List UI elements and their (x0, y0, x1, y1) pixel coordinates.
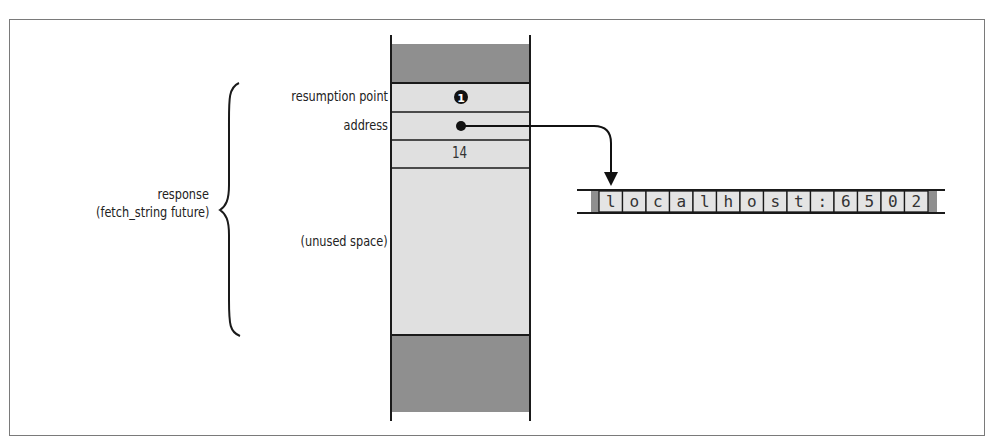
cell-value-14: 14 (452, 144, 467, 162)
diagram-graphics: 1 (0, 0, 994, 448)
string-char: 6 (836, 191, 856, 212)
string-char: h (718, 191, 738, 212)
string-char: l (695, 191, 715, 212)
stack-frame-fill (391, 83, 530, 335)
string-char: 2 (906, 191, 926, 212)
string-char: l (601, 191, 621, 212)
string-char: 0 (883, 191, 903, 212)
label-response: response (158, 186, 209, 203)
stack-used-bottom (391, 335, 530, 412)
stack-used-top (391, 44, 530, 83)
svg-text:1: 1 (457, 92, 465, 105)
arrowhead-icon (604, 172, 618, 186)
label-resumption-point: resumption point (291, 88, 388, 105)
string-char: a (671, 191, 691, 212)
string-char: c (648, 191, 668, 212)
string-char: : (812, 191, 832, 212)
string-char: o (742, 191, 762, 212)
string-char: t (789, 191, 809, 212)
label-fetch-string-future: (fetch_string future) (96, 204, 209, 221)
string-char: s (765, 191, 785, 212)
brace-icon (220, 83, 240, 336)
label-unused-space: (unused space) (301, 233, 388, 250)
label-address: address (344, 117, 388, 134)
string-char: o (624, 191, 644, 212)
string-char: 5 (859, 191, 879, 212)
